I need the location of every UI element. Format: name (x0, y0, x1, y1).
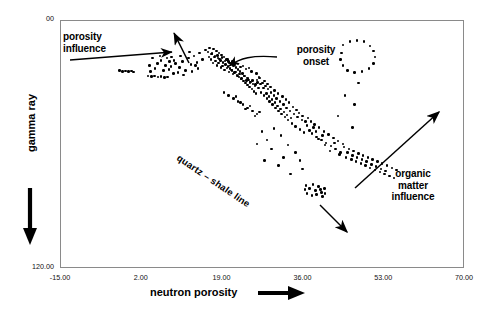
data-point (234, 71, 237, 74)
x-axis-tick-label: -15.00 (44, 273, 76, 282)
data-point (274, 101, 277, 104)
data-point (301, 168, 304, 171)
data-point (168, 68, 171, 71)
x-axis-tick-label: 19.00 (206, 273, 238, 282)
data-point (223, 69, 226, 72)
data-point (266, 139, 269, 142)
data-point (299, 159, 302, 162)
data-point (255, 72, 258, 75)
crossplot-figure: gamma ray neutron porosity porosity infl… (0, 0, 485, 314)
data-point (231, 60, 234, 63)
annotation-organic-matter-influence: organic matter influence (377, 168, 449, 203)
annotation-porosity-onset: porosity onset (281, 44, 351, 67)
data-point (281, 95, 284, 98)
data-point (271, 98, 274, 101)
data-point (174, 62, 177, 65)
data-point (230, 69, 233, 72)
data-point (263, 159, 266, 162)
data-point (251, 110, 254, 113)
data-point (260, 91, 263, 94)
data-point (294, 151, 297, 154)
data-point (194, 64, 197, 67)
data-point (162, 69, 165, 72)
data-point (342, 44, 345, 47)
data-point (221, 65, 224, 68)
data-point (365, 160, 368, 163)
data-point (318, 126, 321, 129)
data-point (312, 183, 315, 186)
data-point (285, 98, 288, 101)
data-point (356, 156, 359, 159)
x-axis-label: neutron porosity (150, 286, 237, 298)
data-point (353, 71, 356, 74)
data-point (280, 113, 283, 116)
data-point (240, 77, 243, 80)
data-point (149, 70, 152, 73)
data-point (244, 108, 247, 111)
data-point (273, 89, 276, 92)
data-point (376, 160, 379, 163)
data-point (383, 173, 386, 176)
data-point (299, 128, 302, 131)
data-point (315, 193, 318, 196)
data-point (323, 187, 326, 190)
data-point (282, 103, 285, 106)
x-axis-tick-label: 70.00 (448, 273, 480, 282)
data-point (371, 158, 374, 161)
data-point (351, 126, 354, 129)
data-point (319, 188, 322, 191)
data-point (350, 158, 353, 161)
data-point (216, 54, 219, 57)
data-point (368, 67, 371, 70)
data-point (327, 133, 330, 136)
data-point (178, 66, 181, 69)
data-point (332, 137, 335, 140)
data-point (395, 169, 398, 172)
data-point (177, 71, 180, 74)
data-point (370, 163, 373, 166)
data-point (216, 64, 219, 67)
data-point (172, 72, 175, 75)
annotation-porosity-influence: porosity influence (63, 31, 106, 54)
data-point (346, 151, 349, 154)
x-axis-direction-arrow-head (288, 286, 305, 300)
data-point (304, 188, 307, 191)
data-point (320, 191, 323, 194)
data-point (320, 139, 323, 142)
data-point (164, 64, 167, 67)
y-axis-tick-label: 120.00 (16, 262, 54, 271)
data-point (279, 108, 282, 111)
data-point (369, 167, 372, 170)
data-point (338, 153, 341, 156)
y-axis-tick-label: 00 (18, 14, 54, 23)
data-point (346, 69, 349, 72)
data-point (160, 59, 163, 62)
data-point (349, 40, 352, 43)
data-point (235, 95, 238, 98)
x-axis-tick-label: 36.00 (286, 273, 318, 282)
data-point (295, 109, 298, 112)
data-point (303, 131, 306, 134)
data-point (156, 62, 159, 65)
data-point (168, 60, 171, 63)
data-point (214, 60, 217, 63)
data-point (166, 76, 169, 79)
data-point (317, 138, 320, 141)
data-point (276, 105, 279, 108)
data-point (291, 122, 294, 125)
data-point (277, 110, 280, 113)
data-point (311, 132, 314, 135)
data-point (258, 111, 261, 114)
data-point (342, 64, 345, 67)
data-point (289, 173, 292, 176)
data-point (251, 79, 254, 82)
data-point (255, 92, 258, 95)
data-point (312, 126, 315, 129)
data-point (357, 152, 360, 155)
data-point (246, 107, 249, 110)
data-point (265, 92, 268, 95)
data-point (263, 80, 266, 83)
data-point (181, 60, 184, 63)
y-axis-direction-arrow-head (23, 228, 37, 245)
data-point (308, 187, 311, 190)
